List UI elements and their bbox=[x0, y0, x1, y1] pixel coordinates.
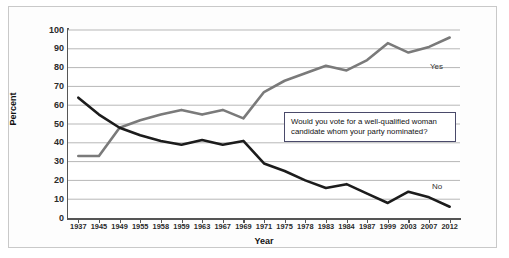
y-axis-tick-labels: 0102030405060708090100 bbox=[36, 8, 64, 248]
x-axis-title: Year bbox=[68, 236, 460, 246]
x-tick-label: 2012 bbox=[441, 223, 457, 231]
x-tick-label: 1937 bbox=[70, 223, 86, 231]
chart-screenshot: Percent 0102030405060708090100 193719451… bbox=[0, 0, 509, 258]
x-tick-label: 2003 bbox=[400, 223, 416, 231]
x-tick-label: 1945 bbox=[91, 223, 107, 231]
x-tick-label: 1963 bbox=[194, 223, 210, 231]
x-tick-label: 1978 bbox=[297, 223, 313, 231]
x-tick-label: 1967 bbox=[214, 223, 230, 231]
y-tick-label: 100 bbox=[40, 26, 64, 35]
x-tick-label: 1983 bbox=[318, 223, 334, 231]
y-tick-label: 60 bbox=[40, 101, 64, 110]
y-tick-label: 80 bbox=[40, 63, 64, 72]
x-tick-label: 1999 bbox=[380, 223, 396, 231]
y-tick-label: 10 bbox=[40, 195, 64, 204]
x-tick-label: 1959 bbox=[173, 223, 189, 231]
series-label-yes: Yes bbox=[430, 62, 443, 71]
y-axis-title: Percent bbox=[8, 92, 18, 125]
x-tick-label: 1987 bbox=[359, 223, 375, 231]
y-tick-label: 0 bbox=[40, 214, 64, 223]
series-label-no: No bbox=[432, 182, 442, 191]
x-tick-label: 1949 bbox=[111, 223, 127, 231]
x-axis-tick-labels: 1937194519491955195819591963196719691971… bbox=[68, 223, 460, 237]
x-tick-label: 2007 bbox=[421, 223, 437, 231]
x-tick-label: 1984 bbox=[338, 223, 354, 231]
x-tick-label: 1975 bbox=[276, 223, 292, 231]
y-tick-label: 40 bbox=[40, 138, 64, 147]
survey-question-annotation: Would you vote for a well-qualified woma… bbox=[284, 112, 456, 142]
x-tick-label: 1971 bbox=[256, 223, 272, 231]
x-tick-label: 1969 bbox=[235, 223, 251, 231]
figure-inner: Percent 0102030405060708090100 193719451… bbox=[12, 8, 497, 248]
y-tick-label: 50 bbox=[40, 120, 64, 129]
x-tick-label: 1958 bbox=[153, 223, 169, 231]
annotation-line-2: candidate whom your party nominated? bbox=[291, 127, 449, 137]
y-tick-label: 20 bbox=[40, 176, 64, 185]
y-tick-label: 70 bbox=[40, 82, 64, 91]
x-tick-label: 1955 bbox=[132, 223, 148, 231]
annotation-line-1: Would you vote for a well-qualified woma… bbox=[291, 117, 449, 127]
y-tick-label: 90 bbox=[40, 44, 64, 53]
y-tick-label: 30 bbox=[40, 157, 64, 166]
